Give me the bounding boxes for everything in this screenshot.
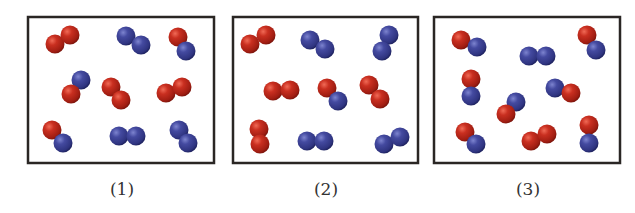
blue-atom (127, 127, 146, 146)
red-atom (257, 26, 276, 45)
molecule-diagram: (1) (2) (3) (0, 0, 635, 213)
blue-atom (580, 134, 599, 153)
red-atom (112, 91, 131, 110)
panel-2: (2) (233, 17, 418, 199)
panel-label: (1) (110, 179, 134, 199)
red-atom (61, 26, 80, 45)
blue-atom (467, 135, 486, 154)
blue-atom (298, 132, 317, 151)
blue-atom (391, 128, 410, 147)
red-atom (562, 84, 581, 103)
blue-atom (316, 40, 335, 59)
blue-atom (537, 47, 556, 66)
blue-atom (587, 41, 606, 60)
red-atom (173, 78, 192, 97)
red-atom (580, 116, 599, 135)
panel-3: (3) (434, 17, 620, 199)
red-atom (281, 81, 300, 100)
panel-label: (2) (314, 179, 338, 199)
red-atom (241, 35, 260, 54)
red-atom (251, 135, 270, 154)
red-atom (371, 90, 390, 109)
blue-atom (462, 87, 481, 106)
blue-atom (468, 38, 487, 57)
red-atom (497, 105, 516, 124)
panel-label: (3) (516, 179, 540, 199)
blue-atom (520, 47, 539, 66)
blue-atom (329, 92, 348, 111)
blue-atom (54, 134, 73, 153)
blue-atom (179, 134, 198, 153)
blue-atom (110, 127, 129, 146)
blue-atom (373, 42, 392, 61)
red-atom (264, 82, 283, 101)
red-atom (62, 85, 81, 104)
blue-atom (315, 132, 334, 151)
red-atom (538, 125, 557, 144)
blue-atom (132, 36, 151, 55)
panel-1: (1) (28, 17, 214, 199)
red-atom (462, 70, 481, 89)
blue-atom (177, 42, 196, 61)
